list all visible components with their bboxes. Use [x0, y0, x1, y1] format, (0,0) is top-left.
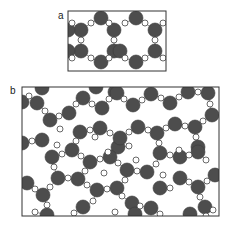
small-atom: [71, 210, 77, 216]
small-atom: [193, 134, 199, 140]
small-atom: [104, 186, 110, 192]
small-atom: [122, 55, 128, 61]
large-atom: [43, 113, 57, 127]
small-atom: [90, 198, 96, 204]
small-atom: [203, 157, 209, 163]
small-atom: [89, 101, 95, 107]
large-atom: [90, 183, 104, 197]
large-atom: [45, 150, 59, 164]
large-atom: [150, 126, 164, 140]
large-atom: [201, 86, 215, 100]
small-atom: [134, 168, 140, 174]
small-atom: [73, 101, 79, 107]
large-atom: [30, 96, 44, 110]
large-atom: [153, 146, 167, 160]
large-atom: [113, 131, 127, 145]
small-atom: [47, 184, 53, 190]
small-atom: [152, 37, 158, 43]
large-atom: [120, 163, 134, 177]
small-atom: [197, 194, 203, 200]
lattice-diagram: a b: [0, 0, 229, 226]
small-atom: [186, 179, 192, 185]
panel-b: b: [10, 80, 222, 222]
small-atom: [87, 127, 93, 133]
large-atom: [93, 121, 107, 135]
large-atom: [148, 23, 162, 37]
large-atom: [35, 133, 49, 147]
small-atom: [167, 185, 173, 191]
large-atom: [73, 125, 87, 139]
small-atom: [160, 172, 166, 178]
small-atom: [115, 160, 121, 166]
large-atom: [62, 106, 76, 120]
large-atom: [83, 155, 97, 169]
small-atom: [156, 140, 162, 146]
small-atom: [204, 178, 210, 184]
large-atom: [173, 171, 187, 185]
large-atom: [95, 101, 109, 115]
small-atom: [210, 207, 216, 213]
small-atom: [176, 94, 182, 100]
small-atom: [167, 152, 173, 158]
large-atom: [191, 180, 205, 194]
large-atom: [148, 44, 162, 58]
small-atom: [153, 161, 159, 167]
large-atom: [144, 87, 158, 101]
small-atom: [112, 209, 118, 215]
small-atom: [160, 20, 166, 26]
small-atom: [106, 96, 112, 102]
small-atom: [73, 138, 79, 144]
large-atom: [131, 120, 145, 134]
large-atom: [140, 165, 154, 179]
small-atom: [207, 101, 213, 107]
small-atom: [92, 134, 98, 140]
small-atom: [88, 55, 94, 61]
small-atom: [133, 157, 139, 163]
small-atom: [69, 20, 75, 26]
small-atom: [44, 202, 50, 208]
small-atom: [142, 20, 148, 26]
large-atom: [163, 96, 177, 110]
large-atom: [65, 143, 79, 157]
small-atom: [57, 126, 63, 132]
small-atom: [139, 97, 145, 103]
small-atom: [182, 123, 188, 129]
large-atom: [71, 172, 85, 186]
atoms: [61, 11, 166, 69]
small-atom: [69, 55, 75, 61]
large-atom: [183, 207, 197, 221]
small-atom: [145, 127, 151, 133]
small-atom: [106, 55, 112, 61]
large-atom: [144, 201, 158, 215]
small-atom: [163, 125, 169, 131]
small-atom: [51, 164, 57, 170]
small-atom: [26, 93, 32, 99]
small-atom: [122, 177, 128, 183]
panel-label: a: [58, 10, 64, 21]
small-atom: [137, 203, 143, 209]
small-atom: [78, 37, 84, 43]
large-atom: [40, 208, 54, 222]
small-atom: [126, 143, 132, 149]
small-atom: [122, 20, 128, 26]
small-atom: [29, 138, 35, 144]
small-atom: [119, 193, 125, 199]
large-atom: [74, 23, 88, 37]
small-atom: [82, 168, 88, 174]
large-atom: [129, 11, 143, 25]
large-atom: [35, 81, 49, 95]
small-atom: [88, 20, 94, 26]
small-atom: [84, 182, 90, 188]
large-atom: [205, 108, 219, 122]
small-atom: [126, 129, 132, 135]
small-atom: [32, 209, 38, 215]
small-atom: [158, 95, 164, 101]
small-atom: [195, 89, 201, 95]
small-atom: [111, 37, 117, 43]
large-atom: [126, 98, 140, 112]
panel-a: a: [58, 10, 166, 71]
small-atom: [176, 147, 182, 153]
large-atom: [76, 200, 90, 214]
large-atom: [51, 171, 65, 185]
large-atom: [191, 145, 205, 159]
